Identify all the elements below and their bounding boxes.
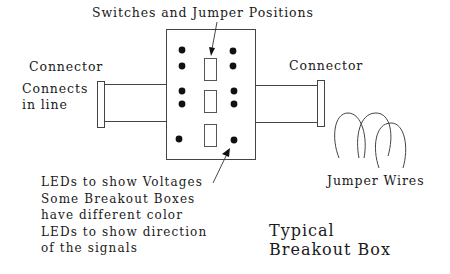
led-icon	[176, 136, 183, 143]
switch-pointer-arrow	[209, 22, 217, 56]
connects-inline-label-1: Connects	[22, 81, 88, 97]
connector-right-label: Connector	[289, 58, 363, 74]
left-connector-cable	[105, 85, 167, 122]
jumper-wires-icon	[335, 113, 406, 168]
switches-label: Switches and Jumper Positions	[92, 5, 314, 21]
connects-inline-label-2: in line	[22, 97, 68, 113]
led-icon	[231, 88, 238, 95]
switches	[205, 59, 217, 147]
jumper-wires-label: Jumper Wires	[327, 173, 424, 189]
right-connector	[256, 81, 325, 127]
connector-left-label: Connector	[29, 59, 103, 75]
leds-note-line: have different color	[41, 207, 207, 224]
leds	[176, 47, 238, 144]
led-icon	[231, 101, 238, 108]
led-icon	[179, 47, 186, 54]
led-icon	[230, 63, 237, 70]
right-connector-flange	[318, 81, 325, 127]
switch-icon	[205, 91, 217, 113]
led-icon	[179, 63, 186, 70]
leds-note-line: Some Breakout Boxes	[41, 191, 207, 208]
left-connector	[98, 82, 167, 128]
leds-note-line: LEDs to show Voltages	[41, 174, 207, 191]
led-icon	[179, 101, 186, 108]
switch-icon	[205, 125, 217, 147]
leds-note-line: of the signals	[41, 240, 207, 257]
diagram-title-line: Breakout Box	[269, 240, 391, 260]
left-connector-flange	[98, 82, 105, 128]
led-icon	[179, 88, 186, 95]
diagram-title-line: Typical	[269, 221, 391, 241]
led-icon	[230, 48, 237, 55]
switch-icon	[205, 59, 217, 81]
leds-note-line: LEDs to show direction	[41, 224, 207, 241]
leds-note: LEDs to show Voltages Some Breakout Boxe…	[41, 174, 207, 257]
diagram-title: Typical Breakout Box	[269, 221, 391, 261]
right-connector-cable	[256, 86, 318, 123]
led-pointer-arrow	[213, 148, 230, 183]
led-icon	[231, 137, 238, 144]
